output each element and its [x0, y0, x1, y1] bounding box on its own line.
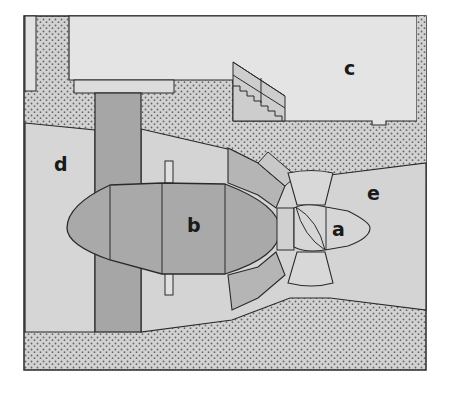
- label-d: d: [54, 153, 68, 175]
- hub-connector: [277, 208, 294, 250]
- label-a: a: [332, 218, 345, 240]
- label-e: e: [367, 182, 380, 204]
- right-wall-strip: [417, 16, 426, 164]
- gate-rod-lower: [165, 273, 173, 295]
- turbine-diagram: c d e b a: [0, 0, 452, 395]
- left-shaft: [25, 16, 36, 91]
- gate-rod-upper: [165, 161, 173, 183]
- crane-beam: [74, 80, 174, 93]
- label-b: b: [187, 214, 201, 236]
- label-c: c: [344, 57, 355, 79]
